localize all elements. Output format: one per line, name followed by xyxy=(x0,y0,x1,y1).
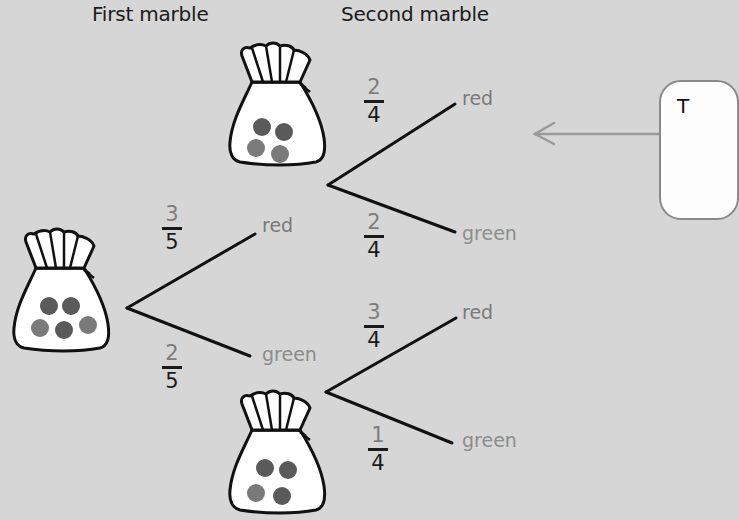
second-level-branches-after-green xyxy=(326,318,456,443)
fraction-green-red: 3 4 xyxy=(362,302,386,351)
callout-text: T xyxy=(677,94,689,118)
marble-red xyxy=(279,461,297,479)
branch-green-red xyxy=(326,318,456,392)
bag-after-green-icon xyxy=(230,391,325,513)
marble-red xyxy=(55,321,73,339)
label-red-green: green xyxy=(462,224,517,243)
marble-green xyxy=(79,316,97,334)
denominator: 5 xyxy=(160,232,184,253)
fraction-first-red: 3 5 xyxy=(160,204,184,253)
marble-red xyxy=(253,118,271,136)
numerator: 2 xyxy=(160,343,184,364)
fraction-green-green: 1 4 xyxy=(366,425,390,474)
marble-red xyxy=(275,123,293,141)
label-first-red: red xyxy=(262,216,293,235)
denominator: 5 xyxy=(160,371,184,392)
denominator: 4 xyxy=(362,240,386,261)
marble-red xyxy=(62,297,80,315)
label-green-red: red xyxy=(462,303,493,322)
marble-red xyxy=(40,297,58,315)
label-green-green: green xyxy=(462,431,517,450)
first-level-branches xyxy=(127,234,255,356)
callout-box: T xyxy=(659,80,739,220)
branch-red-red xyxy=(328,104,455,185)
branch-first-red xyxy=(127,234,255,308)
label-red-red: red xyxy=(462,89,493,108)
marble-green xyxy=(271,145,289,163)
numerator: 2 xyxy=(362,77,386,98)
fraction-first-green: 2 5 xyxy=(160,343,184,392)
branch-red-green xyxy=(328,185,455,232)
numerator: 3 xyxy=(160,204,184,225)
marble-green xyxy=(247,484,265,502)
bag-after-red-icon xyxy=(230,43,325,165)
first-bag-icon xyxy=(14,229,109,351)
marble-green xyxy=(247,139,265,157)
denominator: 4 xyxy=(362,330,386,351)
denominator: 4 xyxy=(366,453,390,474)
fraction-red-red: 2 4 xyxy=(362,77,386,126)
denominator: 4 xyxy=(362,105,386,126)
fraction-red-green: 2 4 xyxy=(362,212,386,261)
second-level-branches-after-red xyxy=(328,104,455,232)
branch-first-green xyxy=(127,308,250,356)
arrow-left-icon xyxy=(535,123,659,144)
marble-red xyxy=(273,487,291,505)
numerator: 2 xyxy=(362,212,386,233)
marble-green xyxy=(31,319,49,337)
numerator: 1 xyxy=(366,425,390,446)
numerator: 3 xyxy=(362,302,386,323)
marble-red xyxy=(256,459,274,477)
label-first-green: green xyxy=(262,345,317,364)
